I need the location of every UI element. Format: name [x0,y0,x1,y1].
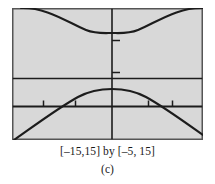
figure-container: [–15,15] by [–5, 15] (c) [0,0,215,184]
viewing-window-caption: [–15,15] by [–5, 15] [0,145,215,157]
figure-part-label: (c) [0,163,215,175]
graph-plot-area [12,8,203,140]
graph-svg [12,8,203,140]
